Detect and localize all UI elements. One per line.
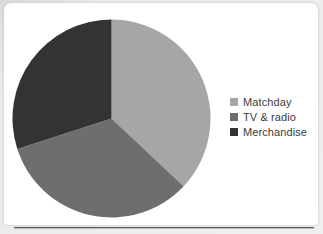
pie-slice-group — [13, 20, 211, 218]
legend-swatch-icon-merchandise — [230, 128, 238, 136]
pie-chart — [12, 19, 211, 218]
legend-label-matchday: Matchday — [243, 96, 292, 108]
footer-divider-shadow — [14, 228, 314, 229]
legend-label-merchandise: Merchandise — [243, 126, 307, 138]
screenshot-root: Matchday TV & radio Merchandise — [0, 0, 323, 234]
legend-label-tv-and-radio: TV & radio — [243, 111, 296, 123]
legend-item-merchandise[interactable]: Merchandise — [230, 125, 320, 139]
legend-item-tv-and-radio[interactable]: TV & radio — [230, 110, 320, 124]
legend-swatch-icon-tv-and-radio — [230, 113, 238, 121]
legend-swatch-icon-matchday — [230, 98, 238, 106]
legend-item-matchday[interactable]: Matchday — [230, 95, 320, 109]
pie-chart-svg — [12, 19, 211, 218]
chart-legend: Matchday TV & radio Merchandise — [230, 95, 320, 140]
